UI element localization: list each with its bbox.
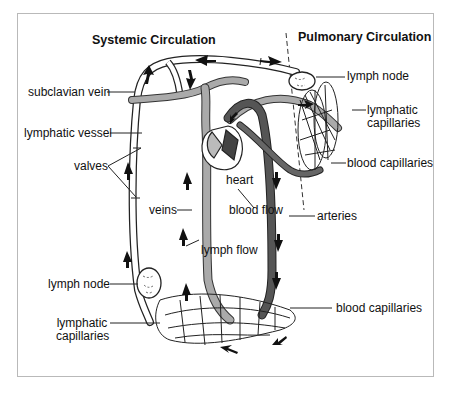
label-line-2: capillaries	[56, 330, 108, 343]
divider-line	[286, 33, 304, 210]
label-line-2: capillaries	[367, 117, 420, 130]
label-blood-flow: blood flow	[229, 204, 283, 217]
label-blood-capillaries-bottom: blood capillaries	[336, 302, 422, 315]
arrow-icon	[220, 345, 238, 354]
label-lymphatic-vessel: lymphatic vessel	[24, 127, 112, 140]
label-arteries: arteries	[317, 210, 357, 223]
label-lymph-flow: lymph flow	[201, 244, 258, 257]
label-valves: valves	[74, 160, 108, 173]
arrow-icon	[182, 283, 191, 301]
label-lymphatic-capillaries-right: lymphatic capillaries	[367, 104, 420, 130]
arrow-icon	[179, 228, 188, 246]
lymph-node-left	[137, 268, 161, 298]
label-lymphatic-capillaries-left: lymphatic capillaries	[56, 317, 108, 343]
label-heart: heart	[226, 174, 253, 187]
label-lymph-node-right: lymph node	[347, 70, 409, 83]
arrow-icon	[272, 336, 287, 345]
arrow-icon	[183, 172, 192, 190]
label-lymph-node-left: lymph node	[48, 278, 110, 291]
title-systemic-circulation: Systemic Circulation	[92, 33, 216, 47]
arrow-icon	[186, 70, 196, 90]
label-veins: veins	[149, 204, 177, 217]
label-blood-capillaries-right: blood capillaries	[347, 157, 433, 170]
heart	[202, 126, 242, 170]
title-pulmonary-circulation: Pulmonary Circulation	[298, 30, 431, 44]
lymph-node-right	[289, 72, 315, 90]
label-subclavian-vein: subclavian vein	[28, 86, 110, 99]
